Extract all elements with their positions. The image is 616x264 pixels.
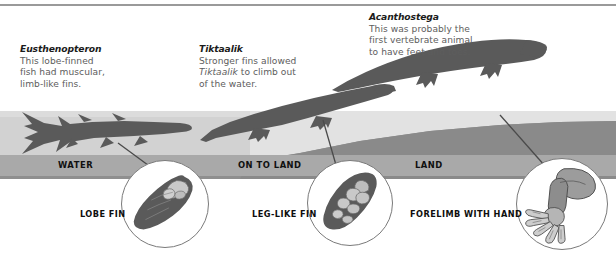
caption-heading-eusthenopteron: Eusthenopteron (20, 43, 105, 55)
caption-line: This lobe-finned (20, 56, 105, 67)
caption-heading-tiktaalik: Tiktaalik (199, 43, 296, 55)
caption-line: Stronger fins allowed (199, 56, 296, 67)
zone-label-on-to-land: ON TO LAND (238, 160, 302, 170)
caption-heading-acanthostega: Acanthostega (369, 11, 473, 23)
caption-line-rest: to climb out (238, 67, 296, 77)
caption-line: limb-like fins. (20, 79, 105, 90)
caption-line: fish had muscular, (20, 67, 105, 78)
callout-label-forelimb-with-hand: FORELIMB WITH HAND (410, 209, 522, 219)
caption-line-italic-species: Tiktaalik to climb out (199, 67, 296, 78)
caption-line: first vertebrate animal (369, 35, 473, 46)
inset-circle-forelimb-with-hand (516, 158, 608, 250)
caption-tiktaalik: Tiktaalik Stronger fins allowed Tiktaali… (199, 43, 296, 90)
species-name-italic: Tiktaalik (199, 67, 238, 77)
zone-label-water: WATER (58, 160, 93, 170)
inset-circle-leg-like-fin (307, 160, 393, 246)
caption-line: of the water. (199, 79, 296, 90)
caption-line: This was probably the (369, 24, 473, 35)
lobe-fin-illustration (122, 161, 208, 247)
callout-label-leg-like-fin: LEG-LIKE FIN (252, 209, 317, 219)
caption-acanthostega: Acanthostega This was probably the first… (369, 11, 473, 58)
caption-eusthenopteron: Eusthenopteron This lobe-finned fish had… (20, 43, 105, 90)
zone-label-land: LAND (415, 160, 443, 170)
eusthenopteron-silhouette (14, 108, 204, 160)
caption-line: to have feet and toes. (369, 47, 473, 58)
inset-circle-lobe-fin (121, 160, 209, 248)
callout-label-lobe-fin: LOBE FIN (80, 209, 126, 219)
diagram-canvas: WATER ON TO LAND LAND (0, 0, 616, 264)
top-divider-rule (0, 4, 616, 6)
forelimb-with-hand-illustration (517, 159, 607, 249)
leg-like-fin-illustration (308, 161, 392, 245)
